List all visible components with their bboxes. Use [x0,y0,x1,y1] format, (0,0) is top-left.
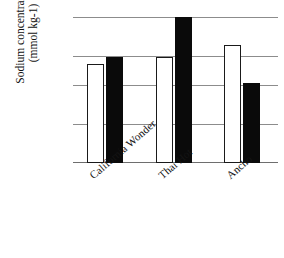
y-axis-title: Sodium concentration (mmol kg-1) [14,0,40,113]
y-axis-title-line1: Sodium concentration [14,0,27,113]
bar-open-1 [156,57,173,163]
bar-open-0 [87,64,104,163]
y-axis-title-line2: (mmol kg-1) [27,0,40,113]
bar-open-2 [224,45,241,163]
bar-solid-2 [243,83,260,163]
bar-chart-figure: Sodium concentration (mmol kg-1) 0481115… [0,0,284,258]
plot-area: 0481115 [73,17,278,163]
bar-solid-1 [175,17,192,163]
